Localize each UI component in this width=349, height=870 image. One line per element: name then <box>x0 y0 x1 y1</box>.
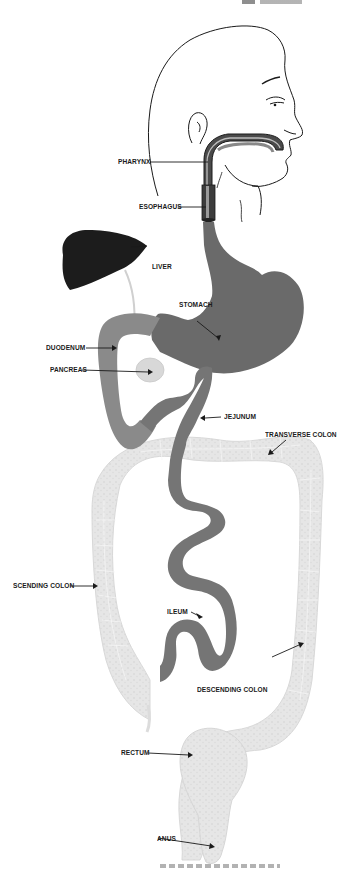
caption-fragment <box>160 864 280 868</box>
label-transverse-colon: TRANSVERSE COLON <box>265 430 337 440</box>
label-jejunum: JEJUNUM <box>224 412 256 422</box>
liver-shape <box>62 230 147 290</box>
small-intestine-shape <box>140 366 237 682</box>
pharynx-shape <box>204 134 283 215</box>
label-esophagus: ESOPHAGUS <box>139 202 182 212</box>
label-ascending-colon: SCENDING COLON <box>13 581 74 591</box>
label-ileum: ILEUM <box>167 607 188 617</box>
label-pancreas: PANCREAS <box>50 365 87 375</box>
label-descending-colon: DESCENDING COLON <box>197 685 268 695</box>
label-stomach: STOMACH <box>179 300 213 310</box>
pancreas-shape <box>136 358 164 382</box>
head-outline <box>148 26 302 215</box>
label-liver: LIVER <box>152 262 172 272</box>
label-pharynx: PHARYNX <box>118 157 150 167</box>
eye-icon <box>274 104 277 107</box>
label-duodenum: DUODENUM <box>46 343 85 353</box>
label-anus: ANUS <box>157 834 176 844</box>
stomach-shape <box>151 222 304 373</box>
label-rectum: RECTUM <box>121 748 150 758</box>
